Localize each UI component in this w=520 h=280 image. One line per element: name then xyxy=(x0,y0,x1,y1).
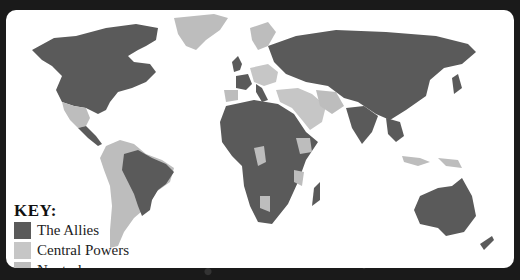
region-uk xyxy=(232,56,242,72)
key-label: Central Powers xyxy=(37,242,129,259)
key-title: KEY: xyxy=(14,202,129,220)
region-central-america xyxy=(78,126,102,146)
region-greenland xyxy=(174,14,228,50)
key-item-neutral: Neutral xyxy=(14,260,129,268)
region-north-america xyxy=(32,24,158,114)
region-japan xyxy=(452,74,462,94)
region-se-asia xyxy=(386,118,404,142)
region-madagascar xyxy=(312,182,320,206)
key-label: Neutral xyxy=(37,262,82,269)
key-item-central-powers: Central Powers xyxy=(14,240,129,260)
region-spain xyxy=(224,90,238,102)
neutral-swatch xyxy=(14,262,31,269)
region-france xyxy=(236,74,252,90)
key-label: The Allies xyxy=(37,222,99,239)
map-panel: KEY: The Allies Central Powers Neutral xyxy=(6,10,514,268)
region-new-zealand xyxy=(480,236,494,250)
allies-swatch xyxy=(14,222,31,239)
region-australia xyxy=(414,178,476,236)
region-indonesia xyxy=(402,156,462,168)
region-italy xyxy=(256,84,268,102)
central-powers-swatch xyxy=(14,242,31,259)
map-key: KEY: The Allies Central Powers Neutral xyxy=(14,202,129,268)
key-item-allies: The Allies xyxy=(14,220,129,240)
region-central-europe xyxy=(250,64,278,86)
